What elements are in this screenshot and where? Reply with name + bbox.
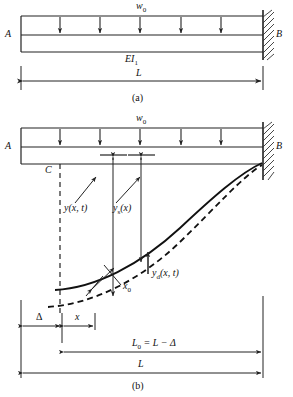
beam-b <box>21 128 263 164</box>
load-arrows-b <box>60 129 221 145</box>
leader-lines <box>75 177 140 203</box>
beam-a <box>21 16 263 52</box>
annotation-dynamic-deflection: yd(x, t) <box>152 268 179 281</box>
annotation-total-deflection: y(x, t) <box>64 203 87 213</box>
support-label-B-b: B <box>276 141 282 151</box>
support-label-A-b: A <box>5 141 11 151</box>
dimension-L-a <box>21 66 263 90</box>
caption-a: (a) <box>132 93 143 103</box>
beam-deflection-figure: A B w0 EI1 L (a) A B w0 C y(x, t) ys(x) … <box>0 0 293 397</box>
fixed-support-b <box>263 122 274 180</box>
annotation-axial-shortening: x0 <box>123 281 131 294</box>
caption-b: (b) <box>132 381 144 391</box>
load-label-a: w0 <box>136 1 146 14</box>
dimension-label-delta: Δ <box>36 312 42 322</box>
load-arrows-a <box>60 17 221 33</box>
fixed-support-a <box>263 10 274 60</box>
stiffness-label-a: EI1 <box>125 54 138 67</box>
dimension-label-L-b: L <box>138 359 144 369</box>
annotation-static-deflection: ys(x) <box>113 203 131 216</box>
dim-x0 <box>86 265 121 296</box>
support-label-B-a: B <box>276 29 282 39</box>
panel-a <box>21 10 274 90</box>
dimension-label-L0: L0 = L − Δ <box>132 338 176 351</box>
point-label-C: C <box>45 165 52 175</box>
dimension-label-L-a: L <box>136 68 142 78</box>
dimension-label-x: x <box>75 312 79 322</box>
support-label-A-a: A <box>5 29 11 39</box>
load-label-b: w0 <box>136 113 146 126</box>
